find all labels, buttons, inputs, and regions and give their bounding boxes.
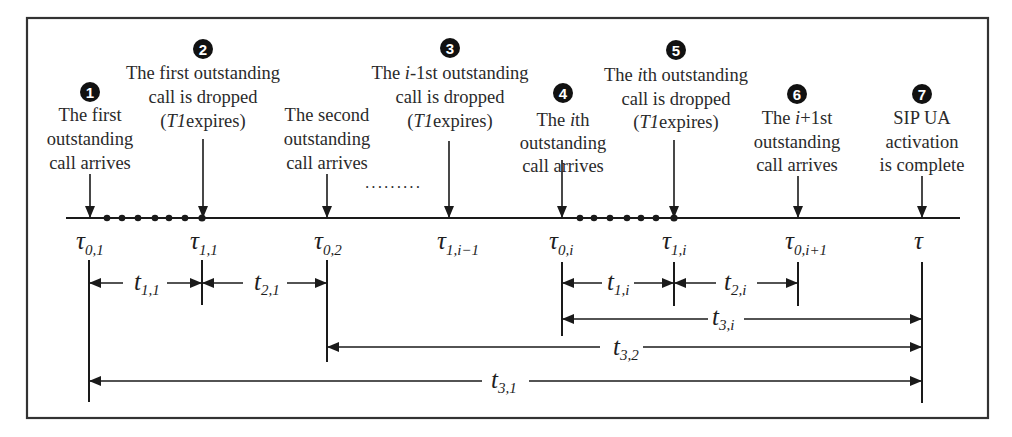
event-label-line: call arrives [49, 153, 131, 173]
step-number: 4 [559, 85, 568, 102]
event-label-line: outstanding [520, 133, 606, 153]
svg-text:t3,1: t3,1 [491, 366, 517, 396]
event-label-line: call is dropped [622, 89, 732, 109]
event-7-sip-ua-activation-complete: 7 SIP UA activation is complete [880, 84, 965, 217]
event-label-line: (T1expires) [160, 111, 245, 132]
event-label-line: The ith [537, 110, 590, 130]
svg-text:t3,i: t3,i [712, 303, 734, 333]
event-label-line: call is dropped [149, 87, 259, 107]
event-label-line: SIP UA [893, 108, 951, 128]
event-label-line: (T1expires) [633, 112, 718, 133]
event-label-line: outstanding [284, 129, 370, 149]
point-tau-0-i-plus-1: τ0,i+1 [785, 227, 827, 258]
svg-text:t3,2: t3,2 [613, 333, 639, 363]
event-label-line: activation [886, 132, 959, 152]
interval-t-1-i: t1,i [563, 268, 673, 298]
interval-t-3-i: t3,i [563, 303, 921, 333]
svg-text:t1,i: t1,i [607, 268, 629, 298]
event-second-call-arrives: The second outstanding call arrives [284, 105, 370, 217]
point-tau-1-1: τ1,1 [190, 227, 218, 258]
step-number: 2 [199, 41, 207, 58]
event-1-first-call-arrives: 1 The first outstanding call arrives [47, 82, 133, 217]
step-number: 3 [446, 40, 454, 57]
point-tau-final: τ [914, 227, 924, 254]
interval-t-3-2: t3,2 [328, 333, 921, 363]
event-label-line: call arrives [756, 155, 838, 175]
event-label-line: The i+1st [762, 108, 833, 128]
event-2-first-call-dropped: 2 The first outstanding call is dropped … [126, 39, 280, 217]
point-tau-1-i: τ1,i [662, 227, 686, 258]
timeline-point-labels: τ0,1 τ1,1 τ0,2 τ1,i−1 τ0,i τ1,i τ0,i+1 τ [76, 227, 924, 258]
interval-t-2-1: t2,1 [203, 268, 326, 298]
event-label-line: The second [285, 105, 371, 125]
point-tau-1-i-minus-1: τ1,i−1 [437, 227, 479, 258]
event-label-line: outstanding [47, 129, 133, 149]
point-tau-0-i: τ0,i [549, 227, 573, 258]
event-label-line: outstanding [754, 132, 840, 152]
event-label-line: is complete [880, 155, 965, 175]
step-number: 5 [672, 42, 680, 59]
svg-text:t2,1: t2,1 [254, 268, 280, 298]
point-tau-0-1: τ0,1 [76, 227, 104, 258]
step-number: 6 [793, 86, 801, 103]
event-label-line: call arrives [522, 156, 604, 176]
interval-t-3-1: t3,1 [90, 366, 921, 396]
event-label-line: call arrives [286, 153, 368, 173]
svg-text:t2,i: t2,i [724, 268, 746, 298]
event-label-line: call is dropped [396, 87, 506, 107]
interval-t-1-1: t1,1 [90, 268, 201, 298]
step-number: 7 [918, 86, 926, 103]
interval-t-2-i: t2,i [675, 268, 797, 298]
point-tau-0-2: τ0,2 [314, 227, 342, 258]
event-label-line: The ith outstanding [604, 65, 748, 85]
step-number: 1 [86, 84, 94, 101]
ellipsis: ········· [365, 179, 422, 196]
event-5-ith-call-dropped: 5 The ith outstanding call is dropped (T… [604, 40, 748, 217]
event-label-line: The i-1st outstanding [371, 63, 528, 83]
event-label-line: (T1expires) [407, 111, 492, 132]
timeline-diagram: 1 The first outstanding call arrives 2 T… [0, 0, 1012, 437]
event-4-ith-call-arrives: 4 The ith outstanding call arrives [520, 83, 606, 217]
event-label-line: The first outstanding [126, 63, 280, 83]
event-label-line: The first [58, 105, 122, 125]
svg-text:t1,1: t1,1 [134, 268, 160, 298]
event-6-i-plus-1st-call-arrives: 6 The i+1st outstanding call arrives [754, 84, 840, 217]
